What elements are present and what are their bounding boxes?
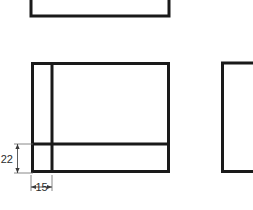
drawing-background (0, 0, 253, 210)
dimension-label-22: 22 (1, 153, 13, 165)
technical-drawing-canvas: 22 15 (0, 0, 253, 210)
engineering-drawing-svg: 22 15 (0, 0, 253, 210)
dimension-label-15: 15 (35, 181, 47, 193)
